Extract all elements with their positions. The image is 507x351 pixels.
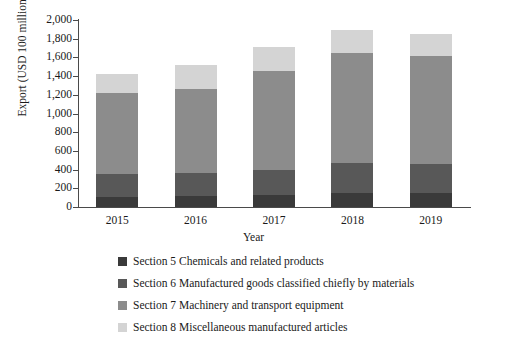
x-axis-tick-label-2018: 2018 <box>317 214 387 226</box>
legend-item-2[interactable]: Section 6 Manufactured goods classified … <box>118 272 458 294</box>
bar-segment[interactable] <box>96 74 138 93</box>
y-axis-tick-label: 800 <box>6 126 72 138</box>
legend-swatch-icon <box>118 279 127 288</box>
plot-area <box>78 20 470 207</box>
legend-item-1[interactable]: Section 5 Chemicals and related products <box>118 250 458 272</box>
bar-stack-2016[interactable] <box>175 65 217 207</box>
legend-label: Section 8 Miscellaneous manufactured art… <box>133 321 348 333</box>
y-axis-tick-label: 600 <box>6 145 72 157</box>
y-axis-tick-labels: 02004006008001,0001,2001,4001,6001,8002,… <box>0 20 72 207</box>
legend-swatch-icon <box>118 257 127 266</box>
bar-segment[interactable] <box>331 193 373 207</box>
y-axis-tick-label: 400 <box>6 164 72 176</box>
bar-segment[interactable] <box>175 89 217 173</box>
legend-item-4[interactable]: Section 8 Miscellaneous manufactured art… <box>118 316 458 338</box>
x-axis-title: Year <box>0 231 507 243</box>
bar-segment[interactable] <box>410 56 452 164</box>
bar-segment[interactable] <box>331 163 373 193</box>
legend-swatch-icon <box>118 301 127 310</box>
bar-segment[interactable] <box>253 71 295 170</box>
y-axis-tick <box>73 39 78 40</box>
y-axis-tick <box>73 57 78 58</box>
x-axis-tick-label-2017: 2017 <box>239 214 309 226</box>
legend-item-3[interactable]: Section 7 Machinery and transport equipm… <box>118 294 458 316</box>
legend-label: Section 6 Manufactured goods classified … <box>133 277 414 289</box>
bar-segment[interactable] <box>331 30 373 52</box>
y-axis-tick-label: 2,000 <box>6 14 72 26</box>
y-axis-tick <box>73 114 78 115</box>
bar-stack-2017[interactable] <box>253 47 295 207</box>
x-axis-tick-label-2019: 2019 <box>396 214 466 226</box>
bar-segment[interactable] <box>96 197 138 207</box>
y-axis-tick <box>73 132 78 133</box>
y-axis-tick <box>73 170 78 171</box>
x-axis-tick-label-2016: 2016 <box>161 214 231 226</box>
y-axis-tick <box>73 207 78 208</box>
y-axis-tick-label: 1,800 <box>6 33 72 45</box>
y-axis-tick-label: 1,000 <box>6 108 72 120</box>
bar-stack-2015[interactable] <box>96 74 138 207</box>
y-axis-tick-label: 1,600 <box>6 51 72 63</box>
y-axis-tick <box>73 76 78 77</box>
bar-segment[interactable] <box>175 173 217 196</box>
bar-segment[interactable] <box>331 53 373 163</box>
chart-legend: Section 5 Chemicals and related products… <box>118 250 458 338</box>
y-axis-tick-label: 1,200 <box>6 89 72 101</box>
y-axis-tick-label: 200 <box>6 182 72 194</box>
bar-segment[interactable] <box>96 93 138 174</box>
x-axis-line <box>78 207 471 208</box>
y-axis-tick <box>73 188 78 189</box>
y-axis-tick-label: 1,400 <box>6 70 72 82</box>
x-axis-tick-label-2015: 2015 <box>82 214 152 226</box>
stacked-bar-chart: Export (USD 100 million) 02004006008001,… <box>0 0 507 351</box>
bar-segment[interactable] <box>410 34 452 57</box>
bar-stack-2018[interactable] <box>331 30 373 207</box>
y-axis-tick <box>73 151 78 152</box>
bar-segment[interactable] <box>253 170 295 196</box>
legend-label: Section 5 Chemicals and related products <box>133 255 324 267</box>
bar-segment[interactable] <box>175 65 217 89</box>
legend-label: Section 7 Machinery and transport equipm… <box>133 299 343 311</box>
bar-segment[interactable] <box>253 195 295 207</box>
bar-segment[interactable] <box>175 196 217 207</box>
y-axis-tick-label: 0 <box>6 201 72 213</box>
bar-segment[interactable] <box>410 193 452 207</box>
bar-stack-2019[interactable] <box>410 34 452 207</box>
bar-segment[interactable] <box>253 47 295 71</box>
y-axis-tick <box>73 20 78 21</box>
y-axis-tick <box>73 95 78 96</box>
legend-swatch-icon <box>118 323 127 332</box>
bar-segment[interactable] <box>96 174 138 197</box>
bar-segment[interactable] <box>410 164 452 192</box>
